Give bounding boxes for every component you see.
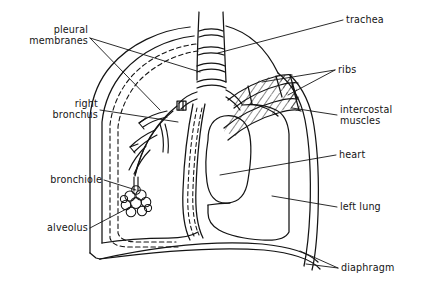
bronchial-tree-shape [129,106,177,191]
label-ribs: ribs [338,64,356,75]
leader-bronchiole [104,180,136,190]
leader-trachea [218,20,343,53]
label-right-bronchus-line2: bronchus [53,109,98,120]
trachea-shape [197,12,226,88]
chest-floor-left [102,232,198,243]
label-intercostal-muscles-line2: muscles [340,115,380,126]
label-alveolus: alveolus [47,222,88,233]
leader-left-lung [272,196,337,207]
label-heart: heart [339,149,365,160]
leader-lines [90,20,343,268]
thorax-diagram: pleural membranes right bronchus bronchi… [0,0,425,289]
label-trachea: trachea [346,14,384,25]
rib-cage-right [226,26,318,270]
intercostal-muscles-shape [215,68,310,144]
chest-wall-outer [90,27,190,259]
diaphragm-shape [100,243,320,269]
label-bronchiole: bronchiole [50,174,102,185]
pleural-membranes-shape [110,44,198,247]
leader-intercostal [292,108,337,115]
mediastinum-pleura [188,108,202,236]
label-diaphragm: diaphragm [341,262,394,273]
leader-alveolus [90,206,132,228]
label-right-bronchus-line1: right [75,98,98,109]
label-left-lung: left lung [340,201,381,212]
diagram-page: pleural membranes right bronchus bronchi… [0,0,425,289]
label-intercostal-muscles-line1: intercostal [340,104,392,115]
label-pleural-membranes-line1: pleural [54,24,88,35]
bronchi-shape [177,90,242,110]
label-pleural-membranes-line2: membranes [29,35,88,46]
